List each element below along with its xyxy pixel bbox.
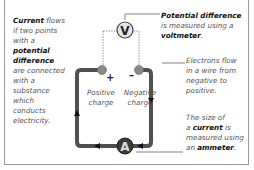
- positive-charge-label: Positive charge: [84, 88, 118, 107]
- positive-sign: +: [106, 72, 114, 83]
- negative-charge-label: Negative charge: [121, 88, 159, 107]
- voltmeter-symbol: V: [120, 24, 130, 38]
- voltmeter-lead-right: [131, 31, 139, 69]
- voltmeter-lead-left: [103, 31, 119, 69]
- arrow-left-icon: [94, 143, 100, 149]
- arrow-left-icon-2: [137, 143, 143, 149]
- negative-sign: –: [129, 70, 134, 81]
- negative-terminal: [135, 66, 144, 75]
- circuit-diagram: V A: [0, 0, 254, 170]
- ammeter-symbol: A: [120, 140, 130, 154]
- arrow-up-icon: [74, 110, 80, 116]
